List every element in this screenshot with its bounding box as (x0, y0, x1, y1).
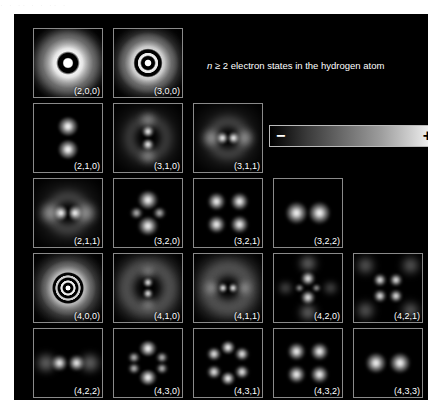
orbital-lobe (311, 343, 329, 359)
orbital-lobe (235, 366, 249, 378)
orbital-lobe (366, 353, 386, 372)
orbital-lobe (138, 217, 158, 235)
orbital-panel: (4,3,2) (273, 328, 343, 398)
orbital-lobe (309, 202, 329, 223)
orbital-quantum-numbers-label: (4,2,2) (74, 386, 100, 397)
orbital-quantum-numbers-label: (3,0,0) (154, 86, 180, 97)
orbital-lobe (153, 208, 165, 218)
orbital-lobe (130, 208, 142, 218)
orbital-lobe (235, 348, 249, 360)
orbital-lobe (311, 366, 329, 382)
orbital-lobe (390, 353, 410, 372)
orbital-quantum-numbers-label: (4,3,1) (234, 386, 260, 397)
orbital-lobe (128, 364, 140, 374)
orbital-panel: (4,0,0) (33, 253, 103, 323)
orbital-lobe (156, 364, 168, 374)
orbital-panel: (4,2,0) (273, 253, 343, 323)
orbital-lobe (400, 255, 420, 275)
orbital-panel: (3,1,0) (113, 103, 183, 173)
orbital-panel: (3,2,1) (193, 178, 263, 248)
orbital-panel: (4,2,1) (353, 253, 423, 323)
orbital-quantum-numbers-label: (3,2,2) (314, 236, 340, 247)
orbital-lobe (207, 348, 221, 360)
orbital-lobe (286, 202, 306, 223)
orbital-lobe (288, 343, 306, 359)
hydrogen-orbital-figure: n ≥ 2 electron states in the hydrogen at… (14, 14, 428, 400)
orbital-panel: (3,1,1) (193, 103, 263, 173)
orbital-quantum-numbers-label: (2,1,1) (74, 236, 100, 247)
orbital-lobe (231, 193, 247, 209)
colorbar-minus-label: − (276, 128, 285, 144)
orbital-lobe (295, 285, 304, 292)
orbital-lobe (139, 341, 157, 356)
orbital-lobe (277, 282, 293, 294)
orbital-quantum-numbers-label: (3,2,0) (154, 236, 180, 247)
orbital-quantum-numbers-label: (4,3,0) (154, 386, 180, 397)
figure-title: n ≥ 2 electron states in the hydrogen at… (207, 60, 422, 72)
orbital-lobe (58, 117, 78, 136)
orbital-lobe (128, 353, 140, 363)
orbital-lobe (301, 291, 316, 304)
orbital-lobe (374, 290, 385, 301)
orbital-lobe (34, 352, 58, 374)
orbital-lobe (78, 352, 102, 374)
orbital-panel: (4,3,3) (353, 328, 423, 398)
orbital-lobe (156, 353, 168, 363)
orbital-lobe (301, 272, 316, 285)
colorbar: − + (269, 125, 428, 147)
scan-artifact-text: · · ·· · · ·· · (0, 0, 446, 12)
orbital-lobe (296, 255, 320, 271)
orbital-lobe (322, 282, 338, 294)
colorbar-plus-label: + (423, 128, 428, 144)
orbital-lobe (58, 140, 78, 159)
orbital-panel: (4,3,1) (193, 328, 263, 398)
orbital-lobe (390, 290, 401, 301)
orbital-lobe (374, 274, 385, 285)
orbital-lobe (288, 366, 306, 382)
orbital-lobe (221, 341, 236, 355)
orbital-panel: (2,1,1) (33, 178, 103, 248)
orbital-lobe (208, 193, 224, 209)
orbital-panel: (4,3,0) (113, 328, 183, 398)
orbital-quantum-numbers-label: (2,1,0) (74, 161, 100, 172)
orbital-lobe (312, 285, 321, 292)
orbital-panel: (4,2,2) (33, 328, 103, 398)
orbital-quantum-numbers-label: (4,1,0) (154, 311, 180, 322)
orbital-quantum-numbers-label: (3,1,0) (154, 161, 180, 172)
orbital-quantum-numbers-label: (4,0,0) (74, 311, 100, 322)
orbital-lobe (138, 191, 158, 209)
orbital-lobe (208, 216, 224, 232)
orbital-lobe (355, 300, 375, 320)
orbital-quantum-numbers-label: (3,2,1) (234, 236, 260, 247)
orbital-quantum-numbers-label: (3,1,1) (234, 161, 260, 172)
orbital-quantum-numbers-label: (4,3,2) (314, 386, 340, 397)
orbital-lobe (207, 366, 221, 378)
orbital-panel: (3,2,0) (113, 178, 183, 248)
orbital-quantum-numbers-label: (4,2,0) (314, 311, 340, 322)
orbital-panel: (4,1,1) (193, 253, 263, 323)
orbital-panel: (3,0,0) (113, 28, 183, 98)
orbital-panel: (4,1,0) (113, 253, 183, 323)
orbital-lobe (355, 255, 375, 275)
orbital-panel: (2,1,0) (33, 103, 103, 173)
orbital-lobe (221, 372, 236, 386)
orbital-panel: (3,2,2) (273, 178, 343, 248)
title-rest: ≥ 2 electron states in the hydrogen atom (212, 60, 384, 71)
orbital-lobe (139, 370, 157, 385)
orbital-lobe (390, 274, 401, 285)
orbital-quantum-numbers-label: (4,2,1) (394, 311, 420, 322)
orbital-quantum-numbers-label: (4,3,3) (394, 386, 420, 397)
orbital-quantum-numbers-label: (2,0,0) (74, 86, 100, 97)
orbital-lobe (231, 216, 247, 232)
orbital-quantum-numbers-label: (4,1,1) (234, 311, 260, 322)
orbital-panel: (2,0,0) (33, 28, 103, 98)
